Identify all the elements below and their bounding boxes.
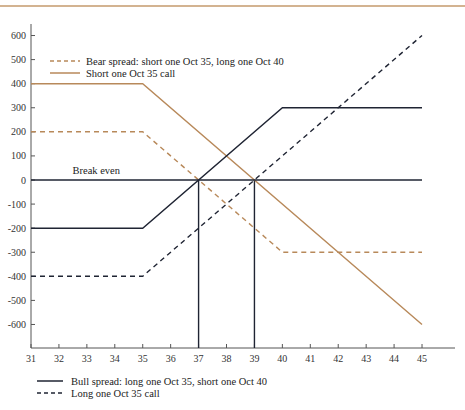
- series-line: [31, 132, 422, 252]
- x-tick-label: 43: [361, 353, 371, 364]
- series-line: [31, 84, 422, 325]
- y-tick-label: -100: [8, 199, 26, 210]
- y-tick-label: 100: [11, 150, 26, 161]
- annotations: Break even: [73, 165, 121, 176]
- x-tick-label: 41: [305, 353, 315, 364]
- x-tick-label: 42: [333, 353, 343, 364]
- y-tick-label: 500: [11, 54, 26, 65]
- y-tick-label: -200: [8, 223, 26, 234]
- legend-bottom: Bull spread: long one Oct 35, short one …: [37, 376, 267, 399]
- y-tick-label: 400: [11, 78, 26, 89]
- x-tick-label: 33: [82, 353, 92, 364]
- legend-label: Short one Oct 35 call: [86, 68, 175, 79]
- x-tick-label: 35: [138, 353, 148, 364]
- axes: 6005004003002001000-100-200-300-400-500-…: [8, 24, 455, 364]
- legend-label: Bear spread: short one Oct 35, long one …: [86, 56, 284, 67]
- x-tick-label: 38: [222, 353, 232, 364]
- x-tick-label: 44: [389, 353, 399, 364]
- x-tick-label: 37: [194, 353, 204, 364]
- y-tick-label: 200: [11, 126, 26, 137]
- x-tick-label: 36: [166, 353, 176, 364]
- payoff-chart: 6005004003002001000-100-200-300-400-500-…: [0, 0, 465, 410]
- legend-label: Bull spread: long one Oct 35, short one …: [71, 376, 267, 387]
- y-tick-label: 0: [21, 175, 26, 186]
- y-tick-label: 300: [11, 102, 26, 113]
- plot-area: [31, 36, 422, 349]
- y-tick-label: 600: [11, 30, 26, 41]
- x-tick-label: 45: [417, 353, 427, 364]
- x-tick-label: 34: [110, 353, 120, 364]
- legend-top: Bear spread: short one Oct 35, long one …: [50, 56, 284, 79]
- x-tick-label: 32: [54, 353, 64, 364]
- break-even-label: Break even: [73, 165, 121, 176]
- y-tick-label: -300: [8, 247, 26, 258]
- legend-label: Long one Oct 35 call: [71, 388, 160, 399]
- y-tick-label: -600: [8, 319, 26, 330]
- x-tick-label: 40: [277, 353, 287, 364]
- x-tick-label: 31: [26, 353, 36, 364]
- y-tick-label: -500: [8, 295, 26, 306]
- y-tick-label: -400: [8, 271, 26, 282]
- x-tick-label: 39: [249, 353, 259, 364]
